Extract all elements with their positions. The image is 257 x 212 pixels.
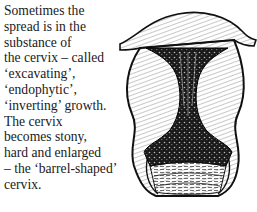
- cervix-illustration: [118, 6, 257, 198]
- cervix-cross-section-icon: [118, 6, 257, 198]
